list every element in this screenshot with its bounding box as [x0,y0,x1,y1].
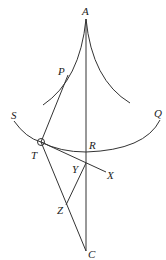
label-Z: Z [57,204,64,216]
geometry-figure: A P S Q T R Y X Z C [0,0,166,260]
label-C: C [88,248,96,260]
label-Y: Y [72,163,80,175]
left-cusp-curve [43,19,86,105]
label-R: R [88,139,96,151]
right-cusp-curve [86,19,130,103]
arc-STRQ [14,120,160,152]
line-TP [41,75,68,142]
label-P: P [57,65,65,77]
label-X: X [106,169,115,181]
line-TC [41,142,86,251]
label-T: T [31,149,38,161]
label-S: S [11,109,17,121]
label-Q: Q [154,107,162,119]
label-A: A [81,5,89,17]
